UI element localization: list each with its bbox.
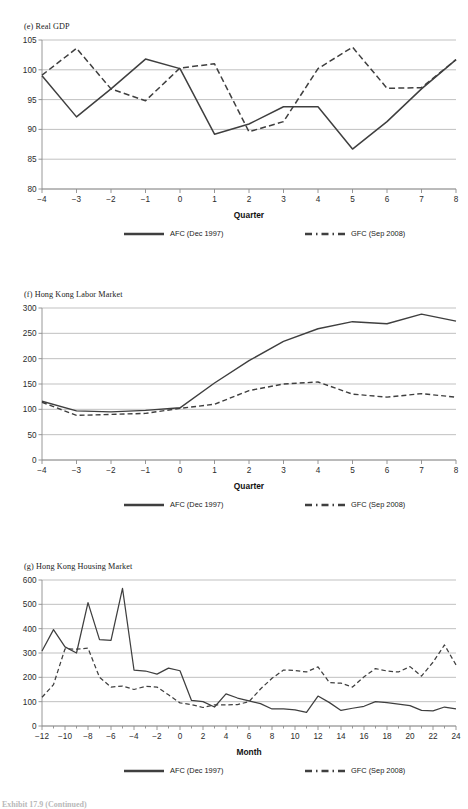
y-tick-label: 300 <box>23 304 37 313</box>
series-line-gfc <box>42 645 456 708</box>
y-tick-label: 100 <box>23 66 37 75</box>
x-tick-label: 7 <box>419 195 424 204</box>
x-tick-label: −8 <box>83 732 93 741</box>
x-tick-label: 10 <box>290 732 300 741</box>
series-line-afc <box>42 314 456 412</box>
x-tick-label: 5 <box>350 466 355 475</box>
x-tick-label: 16 <box>359 732 369 741</box>
legend-solid-line-icon <box>124 501 164 509</box>
y-tick-label: 90 <box>27 125 37 134</box>
x-tick-label: −3 <box>72 466 82 475</box>
x-tick-label: 3 <box>281 466 286 475</box>
legend-label-afc: AFC (Dec 1997) <box>170 766 223 775</box>
y-tick-label: 85 <box>27 155 37 164</box>
y-tick-label: 400 <box>23 625 37 634</box>
x-tick-label: −2 <box>152 732 162 741</box>
x-tick-label: 8 <box>454 466 459 475</box>
legend-item-gfc: GFC (Sep 2008) <box>305 766 405 775</box>
legend-label-gfc: GFC (Sep 2008) <box>351 766 405 775</box>
legend-solid-line-icon <box>124 230 164 238</box>
x-tick-label: 6 <box>385 466 390 475</box>
legend-dashed-line-icon <box>305 230 345 238</box>
legend-item-gfc: GFC (Sep 2008) <box>305 229 405 238</box>
x-tick-label: 2 <box>247 195 252 204</box>
legend-label-afc: AFC (Dec 1997) <box>170 500 223 509</box>
chart-e-canvas: 80859095100105−4−3−2−1012345678Quarter <box>0 32 468 227</box>
y-tick-label: 200 <box>23 673 37 682</box>
legend-item-gfc: GFC (Sep 2008) <box>305 500 405 509</box>
legend-label-gfc: GFC (Sep 2008) <box>351 229 405 238</box>
x-axis-title: Quarter <box>234 210 265 220</box>
x-tick-label: 0 <box>178 466 183 475</box>
x-tick-label: 18 <box>382 732 392 741</box>
y-tick-label: 600 <box>23 576 37 585</box>
x-tick-label: 3 <box>281 195 286 204</box>
exhibit-footer-note: Exhibit 17.9 (Continued) <box>2 800 87 809</box>
y-tick-label: 95 <box>27 96 37 105</box>
legend-item-afc: AFC (Dec 1997) <box>124 766 223 775</box>
chart-f-canvas: 050100150200250300−4−3−2−1012345678Quart… <box>0 300 468 498</box>
panel-real-gdp: (e) Real GDP 80859095100105−4−3−2−101234… <box>0 22 468 245</box>
x-tick-label: 1 <box>212 195 217 204</box>
y-tick-label: 250 <box>23 329 37 338</box>
panel-e-legend: AFC (Dec 1997) GFC (Sep 2008) <box>0 227 468 245</box>
x-tick-label: −6 <box>106 732 116 741</box>
x-tick-label: 5 <box>350 195 355 204</box>
x-tick-label: 2 <box>247 466 252 475</box>
x-tick-label: −1 <box>141 466 151 475</box>
panel-e-title: (e) Real GDP <box>24 22 468 31</box>
x-tick-label: −4 <box>37 466 47 475</box>
panel-hk-housing-market: (g) Hong Kong Housing Market 01002003004… <box>0 562 468 782</box>
y-tick-label: 0 <box>32 722 37 731</box>
y-tick-label: 500 <box>23 600 37 609</box>
legend-dashed-line-icon <box>305 767 345 775</box>
y-tick-label: 105 <box>23 36 37 45</box>
x-tick-label: 2 <box>201 732 206 741</box>
panel-f-title: (f) Hong Kong Labor Market <box>24 290 468 299</box>
panel-g-legend: AFC (Dec 1997) GFC (Sep 2008) <box>0 764 468 782</box>
x-tick-label: 20 <box>405 732 415 741</box>
x-tick-label: 24 <box>451 732 461 741</box>
x-tick-label: 12 <box>313 732 323 741</box>
x-tick-label: −2 <box>106 195 116 204</box>
y-tick-label: 0 <box>32 456 37 465</box>
series-line-afc <box>42 59 456 149</box>
x-tick-label: 8 <box>270 732 275 741</box>
x-tick-label: −4 <box>129 732 139 741</box>
x-tick-label: 14 <box>336 732 346 741</box>
panel-f-plot: 050100150200250300−4−3−2−1012345678Quart… <box>0 300 468 498</box>
panel-g-title: (g) Hong Kong Housing Market <box>24 562 468 571</box>
legend-item-afc: AFC (Dec 1997) <box>124 229 223 238</box>
x-tick-label: −4 <box>37 195 47 204</box>
x-tick-label: 8 <box>454 195 459 204</box>
legend-solid-line-icon <box>124 767 164 775</box>
x-tick-label: −1 <box>141 195 151 204</box>
y-tick-label: 80 <box>27 185 37 194</box>
series-line-afc <box>42 588 456 712</box>
x-tick-label: −3 <box>72 195 82 204</box>
y-tick-label: 50 <box>27 431 37 440</box>
series-line-gfc <box>42 382 456 415</box>
x-tick-label: 0 <box>178 195 183 204</box>
x-tick-label: 1 <box>212 466 217 475</box>
x-tick-label: 6 <box>247 732 252 741</box>
chart-g-canvas: 0100200300400500600−12−10−8−6−4−20246810… <box>0 572 468 764</box>
y-tick-label: 300 <box>23 649 37 658</box>
panel-hk-labor-market: (f) Hong Kong Labor Market 0501001502002… <box>0 290 468 516</box>
panel-e-plot: 80859095100105−4−3−2−1012345678Quarter <box>0 32 468 227</box>
legend-label-afc: AFC (Dec 1997) <box>170 229 223 238</box>
x-tick-label: 7 <box>419 466 424 475</box>
x-tick-label: 4 <box>224 732 229 741</box>
x-tick-label: 4 <box>316 466 321 475</box>
series-line-gfc <box>42 47 456 132</box>
x-tick-label: −2 <box>106 466 116 475</box>
legend-item-afc: AFC (Dec 1997) <box>124 500 223 509</box>
legend-dashed-line-icon <box>305 501 345 509</box>
x-tick-label: −12 <box>35 732 49 741</box>
x-tick-label: −10 <box>58 732 72 741</box>
x-tick-label: 4 <box>316 195 321 204</box>
x-tick-label: 6 <box>385 195 390 204</box>
x-axis-title: Month <box>236 747 261 757</box>
y-tick-label: 100 <box>23 698 37 707</box>
x-tick-label: 22 <box>428 732 438 741</box>
